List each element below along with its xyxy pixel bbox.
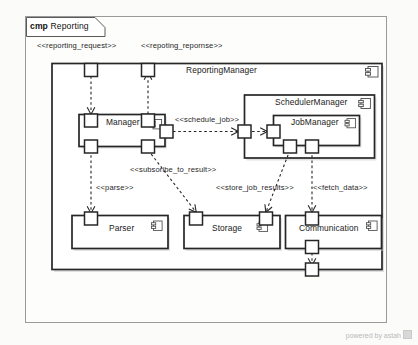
component-name-storage: Storage — [212, 224, 242, 232]
port-manager-parse — [85, 140, 98, 153]
port-job-manager-schedule-job — [267, 125, 280, 138]
port-communication-out — [306, 241, 319, 254]
connector-label-reporting-request: <<reporting_request>> — [37, 42, 116, 50]
connector-label-parse: <<parse>> — [96, 184, 134, 192]
connector-label-fetch-data: <<fetch_data>> — [313, 184, 368, 192]
astah-logo-icon — [403, 330, 412, 339]
connector-label-subsoribe-to-result: <<subsoribe_to_result>> — [130, 166, 216, 174]
connector-label-repoting-repornse: <<repoting_repornse>> — [141, 42, 222, 50]
component-icon — [152, 221, 163, 230]
port-manager-in-request — [85, 114, 98, 127]
port-reporting-request-boundary — [85, 64, 98, 77]
component-communication-shape[interactable] — [286, 216, 384, 252]
port-manager-subscribe — [142, 140, 155, 153]
frame-diagram-name: Reporting — [50, 21, 88, 31]
port-parser-parse — [85, 212, 98, 225]
diagram-canvas: cmp Reporting <<reporting_request>> <<re… — [0, 0, 418, 345]
port-job-manager-store-results — [284, 140, 297, 153]
frame-kind-keyword: cmp — [30, 21, 48, 31]
component-name-communication: Communication — [299, 224, 358, 232]
port-storage-subscribe — [190, 212, 203, 225]
component-name-manager: Manager — [106, 118, 140, 126]
component-name-parser: Parser — [109, 224, 134, 232]
connector-label-schedule-job: <<schedule_job>> — [175, 116, 239, 124]
port-scheduler-manager-schedule-job — [238, 125, 251, 138]
connector-label-store-job-results: <<store_job_results>> — [216, 184, 294, 192]
port-manager-schedule-job — [160, 125, 173, 138]
component-name-job-manager: JobManager — [291, 118, 339, 126]
watermark: powered by astah — [346, 330, 412, 339]
port-communication-boundary — [306, 263, 319, 276]
frame-name-label: cmp Reporting — [30, 22, 89, 31]
component-icon — [367, 221, 378, 230]
port-storage-store-results — [260, 212, 273, 225]
component-icon — [345, 119, 356, 128]
port-repoting-repornse-boundary — [142, 64, 155, 77]
component-name-reporting-manager: ReportingManager — [186, 66, 257, 74]
component-name-scheduler-manager: SchedulerManager — [275, 98, 347, 106]
watermark-text: powered by astah — [346, 332, 401, 339]
port-manager-out-response — [142, 114, 155, 127]
port-job-manager-fetch-data — [306, 140, 319, 153]
